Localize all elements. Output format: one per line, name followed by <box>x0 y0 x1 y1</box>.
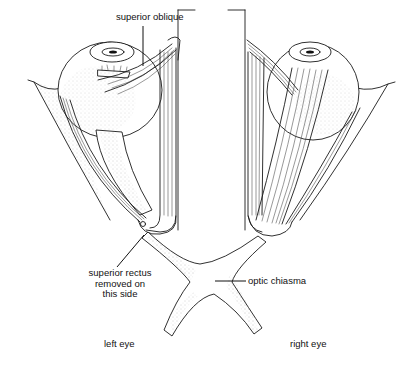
label-superior-rectus-removed: superior rectus removed on this side <box>80 268 160 300</box>
label-superior-oblique: superior oblique <box>116 12 184 23</box>
nasal-bone-block <box>178 10 245 230</box>
label-line-1: superior rectus <box>80 268 160 279</box>
label-right-eye: right eye <box>290 339 326 350</box>
illustration <box>0 0 404 366</box>
label-optic-chiasma: optic chiasma <box>248 276 306 287</box>
label-line-3: this side <box>80 289 160 300</box>
leader-superior-rectus <box>117 235 144 267</box>
left-eye-group <box>28 37 180 234</box>
right-eye-group <box>247 40 395 236</box>
eye-anatomy-diagram: superior oblique superior rectus removed… <box>0 0 404 366</box>
label-left-eye: left eye <box>104 339 135 350</box>
